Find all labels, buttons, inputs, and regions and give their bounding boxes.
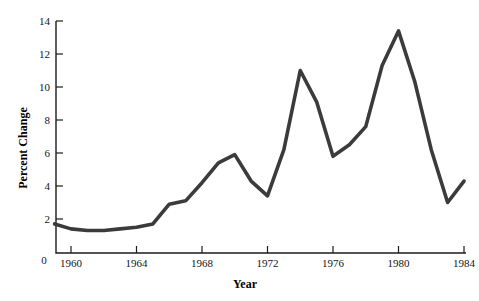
chart-tick-marks [56,21,464,253]
x-tick-label-1980: 1980 [388,257,411,269]
y-tick-label-4: 4 [45,180,51,192]
x-tick-label-1968: 1968 [191,257,214,269]
y-tick-label-14: 14 [39,15,51,27]
y-tick-label-12: 12 [39,48,50,60]
line-chart: 02468101214 1960196419681972197619801984… [0,0,479,301]
x-axis-tick-labels: 1960196419681972197619801984 [60,257,476,269]
chart-axes [56,21,466,253]
x-tick-label-1972: 1972 [257,257,279,269]
y-tick-label-8: 8 [45,114,51,126]
x-axis-title: Year [233,277,258,291]
y-axis-title: Percent Change [16,107,30,189]
y-tick-label-0: 0 [41,254,47,266]
x-tick-label-1964: 1964 [126,257,149,269]
chart-figure: 02468101214 1960196419681972197619801984… [0,0,479,301]
y-tick-label-10: 10 [39,81,51,93]
x-tick-label-1976: 1976 [322,257,345,269]
y-axis-tick-labels: 02468101214 [39,15,51,266]
x-tick-label-1960: 1960 [60,257,83,269]
y-tick-label-2: 2 [45,213,51,225]
x-tick-label-1984: 1984 [453,257,476,269]
y-tick-label-6: 6 [45,147,51,159]
data-series-line [55,31,464,231]
